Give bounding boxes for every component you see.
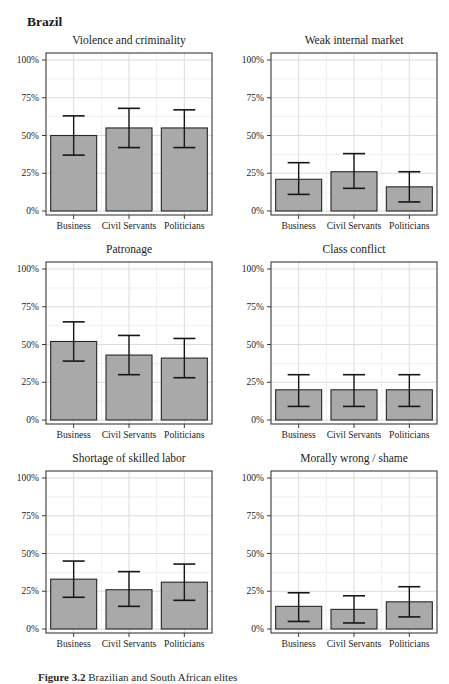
chart-title: Class conflict xyxy=(271,242,437,256)
svg-text:Business: Business xyxy=(282,220,316,230)
chart-title: Shortage of skilled labor xyxy=(46,451,212,465)
svg-text:0%: 0% xyxy=(251,624,264,634)
bar-chart-morally-wrong-shame: 0%25%50%75%100%BusinessCivil ServantsPol… xyxy=(231,465,443,647)
figure-caption: Figure 3.2 Brazilian and South African e… xyxy=(38,670,438,684)
svg-text:75%: 75% xyxy=(22,93,40,103)
svg-text:100%: 100% xyxy=(242,473,264,483)
svg-text:50%: 50% xyxy=(247,131,265,141)
panel-patronage: Patronage 0%25%50%75%100%BusinessCivil S… xyxy=(6,242,218,438)
svg-text:75%: 75% xyxy=(247,93,265,103)
figure-caption-text: Brazilian and South African elites xyxy=(88,671,237,683)
panel-violence-and-criminality: Violence and criminality 0%25%50%75%100%… xyxy=(6,33,218,229)
svg-text:100%: 100% xyxy=(17,473,39,483)
svg-text:75%: 75% xyxy=(22,302,40,312)
svg-text:25%: 25% xyxy=(247,168,265,178)
svg-text:0%: 0% xyxy=(251,415,264,425)
svg-text:50%: 50% xyxy=(22,340,40,350)
svg-text:Politicians: Politicians xyxy=(389,429,430,439)
svg-text:Business: Business xyxy=(57,429,91,439)
svg-text:Business: Business xyxy=(57,220,91,230)
svg-text:50%: 50% xyxy=(247,549,265,559)
svg-text:100%: 100% xyxy=(242,55,264,65)
chart-title: Violence and criminality xyxy=(46,33,212,47)
svg-text:100%: 100% xyxy=(242,264,264,274)
svg-text:25%: 25% xyxy=(22,168,40,178)
svg-text:Civil Servants: Civil Servants xyxy=(327,220,382,230)
svg-text:75%: 75% xyxy=(22,511,40,521)
panel-class-conflict: Class conflict 0%25%50%75%100%BusinessCi… xyxy=(231,242,443,438)
svg-text:Business: Business xyxy=(57,638,91,648)
bar-chart-weak-internal-market: 0%25%50%75%100%BusinessCivil ServantsPol… xyxy=(231,47,443,229)
svg-text:Civil Servants: Civil Servants xyxy=(102,220,157,230)
svg-text:50%: 50% xyxy=(22,131,40,141)
svg-text:Business: Business xyxy=(282,638,316,648)
svg-text:25%: 25% xyxy=(247,377,265,387)
svg-text:50%: 50% xyxy=(247,340,265,350)
bar-chart-class-conflict: 0%25%50%75%100%BusinessCivil ServantsPol… xyxy=(231,256,443,438)
svg-text:Business: Business xyxy=(282,429,316,439)
chart-title: Patronage xyxy=(46,242,212,256)
country-title: Brazil xyxy=(27,13,449,31)
svg-text:Politicians: Politicians xyxy=(389,638,430,648)
svg-text:0%: 0% xyxy=(26,206,39,216)
svg-text:75%: 75% xyxy=(247,511,265,521)
book-page: Brazil Violence and criminality 0%25%50%… xyxy=(0,0,449,647)
panel-shortage-of-skilled-labor: Shortage of skilled labor 0%25%50%75%100… xyxy=(6,451,218,647)
svg-text:0%: 0% xyxy=(251,206,264,216)
bar-chart-patronage: 0%25%50%75%100%BusinessCivil ServantsPol… xyxy=(6,256,218,438)
svg-text:75%: 75% xyxy=(247,302,265,312)
panel-morally-wrong-shame: Morally wrong / shame 0%25%50%75%100%Bus… xyxy=(231,451,443,647)
panel-weak-internal-market: Weak internal market 0%25%50%75%100%Busi… xyxy=(231,33,443,229)
bar-chart-violence-and-criminality: 0%25%50%75%100%BusinessCivil ServantsPol… xyxy=(6,47,218,229)
svg-text:0%: 0% xyxy=(26,415,39,425)
svg-text:Politicians: Politicians xyxy=(164,220,205,230)
small-multiples-grid: Violence and criminality 0%25%50%75%100%… xyxy=(6,33,449,647)
figure-caption-label: Figure 3.2 xyxy=(38,671,85,683)
bar-chart-shortage-of-skilled-labor: 0%25%50%75%100%BusinessCivil ServantsPol… xyxy=(6,465,218,647)
chart-title: Weak internal market xyxy=(271,33,437,47)
svg-text:Civil Servants: Civil Servants xyxy=(327,638,382,648)
svg-text:100%: 100% xyxy=(17,264,39,274)
chart-title: Morally wrong / shame xyxy=(271,451,437,465)
svg-text:Politicians: Politicians xyxy=(164,638,205,648)
svg-text:25%: 25% xyxy=(247,586,265,596)
svg-text:Civil Servants: Civil Servants xyxy=(327,429,382,439)
svg-text:Civil Servants: Civil Servants xyxy=(102,638,157,648)
svg-text:25%: 25% xyxy=(22,586,40,596)
svg-text:25%: 25% xyxy=(22,377,40,387)
svg-text:Politicians: Politicians xyxy=(389,220,430,230)
svg-text:100%: 100% xyxy=(17,55,39,65)
svg-text:0%: 0% xyxy=(26,624,39,634)
svg-text:Politicians: Politicians xyxy=(164,429,205,439)
svg-text:50%: 50% xyxy=(22,549,40,559)
svg-text:Civil Servants: Civil Servants xyxy=(102,429,157,439)
